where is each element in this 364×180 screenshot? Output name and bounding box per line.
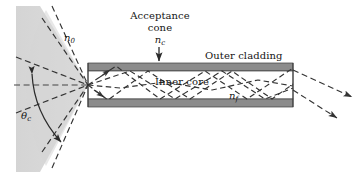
fiber-index-subscript: f xyxy=(236,95,239,103)
acceptance-cone-shading xyxy=(16,6,88,172)
exit-ray-lower xyxy=(293,90,337,118)
acceptance-cone-label-line2: cone xyxy=(148,22,172,33)
inner-core-label: Inner core xyxy=(155,76,209,88)
lower-cladding xyxy=(88,99,293,107)
exit-rays xyxy=(293,70,352,118)
optical-fiber-diagram: Acceptance cone nc Outer cladding Inner … xyxy=(0,0,364,180)
outer-cladding-label: Outer cladding xyxy=(205,50,283,62)
acceptance-cone-label: Acceptance cone xyxy=(122,10,198,33)
fiber-index-label: nf xyxy=(229,90,238,105)
critical-angle-label: θc xyxy=(21,110,31,125)
external-index-label: n0 xyxy=(64,32,75,47)
acceptance-cone-label-line1: Acceptance xyxy=(130,10,190,21)
cladding-index-subscript: c xyxy=(161,39,165,47)
upper-cladding xyxy=(88,63,293,71)
cladding-index-label: nc xyxy=(148,34,172,49)
critical-angle-subscript: c xyxy=(27,115,31,123)
external-index-subscript: 0 xyxy=(71,37,75,45)
exit-ray-upper xyxy=(293,70,352,97)
